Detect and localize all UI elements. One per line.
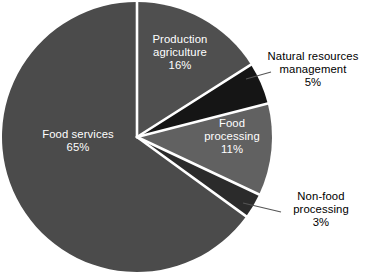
callout-label-line1: Non-food: [276, 190, 366, 203]
slice-label-line2: agriculture: [132, 46, 228, 59]
slice-label-line1: Food services: [18, 128, 138, 141]
slice-label-line1: Production: [132, 33, 228, 46]
slice-label-line2: processing: [186, 130, 278, 143]
slice-label-food-processing: Food processing 11%: [186, 117, 278, 156]
slice-label-production-agriculture: Production agriculture 16%: [132, 33, 228, 72]
callout-label-line1: Natural resources: [258, 50, 368, 63]
slice-value-food-services: 65%: [18, 141, 138, 154]
callout-label-non-food-processing: Non-food processing 3%: [276, 190, 366, 229]
slice-label-line1: Food: [186, 117, 278, 130]
callout-label-natural-resources-management: Natural resources management 5%: [258, 50, 368, 89]
pie-chart: Production agriculture 16% Food services…: [0, 0, 369, 280]
slice-value-food-processing: 11%: [186, 143, 278, 156]
slice-value-production-agriculture: 16%: [132, 59, 228, 72]
slice-label-food-services: Food services 65%: [18, 128, 138, 154]
callout-value-natural-resources-management: 5%: [258, 76, 368, 89]
callout-label-line2: processing: [276, 203, 366, 216]
callout-value-non-food-processing: 3%: [276, 216, 366, 229]
callout-label-line2: management: [258, 63, 368, 76]
